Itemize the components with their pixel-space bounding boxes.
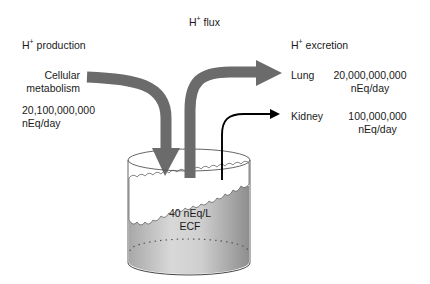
source-line-1: Cellular xyxy=(24,69,80,82)
production-heading-h: H xyxy=(22,39,30,51)
title-h: H xyxy=(189,16,197,28)
lung-rate-unit: nEq/day xyxy=(330,82,410,95)
ecf-label: 40 nEq/L ECF xyxy=(160,207,220,233)
production-heading-text: production xyxy=(34,39,86,51)
ecf-concentration: 40 nEq/L xyxy=(160,207,220,220)
kidney-label: Kidney xyxy=(291,110,323,123)
production-rate-value: 20,100,000,000 xyxy=(22,104,95,117)
excretion-heading-text: excretion xyxy=(303,39,349,51)
source-line-2: metabolism xyxy=(24,82,80,95)
production-rate: 20,100,000,000 nEq/day xyxy=(22,104,95,130)
production-arrow xyxy=(87,77,166,150)
ecf-name: ECF xyxy=(160,220,220,233)
production-source: Cellular metabolism xyxy=(24,69,80,95)
lung-rate-value: 20,000,000,000 xyxy=(330,69,410,82)
kidney-rate-unit: nEq/day xyxy=(345,123,410,136)
title-text: flux xyxy=(201,16,220,28)
excretion-heading: H+ excretion xyxy=(291,39,348,52)
kidney-rate: 100,000,000 nEq/day xyxy=(345,110,410,136)
lung-label: Lung xyxy=(291,69,314,82)
diagram-title: H+ flux xyxy=(189,16,220,29)
lung-arrow xyxy=(190,72,262,178)
production-rate-unit: nEq/day xyxy=(22,117,95,130)
production-heading: H+ production xyxy=(22,39,86,52)
kidney-rate-value: 100,000,000 xyxy=(345,110,410,123)
excretion-heading-h: H xyxy=(291,39,299,51)
lung-arrowhead xyxy=(256,60,282,86)
lung-rate: 20,000,000,000 nEq/day xyxy=(330,69,410,95)
kidney-arrowhead xyxy=(270,109,280,119)
